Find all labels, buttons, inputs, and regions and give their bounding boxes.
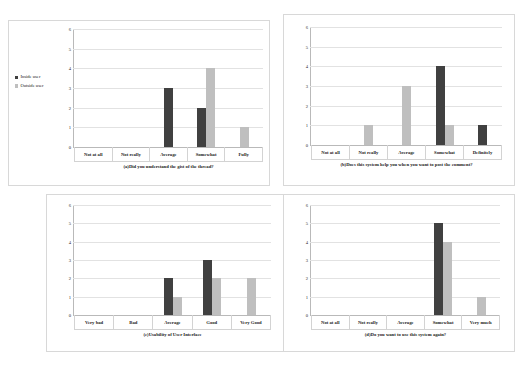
bar-category-group <box>387 27 425 145</box>
x-axis-category-band: Not at allNot reallyAverageSomewhatVery … <box>311 315 500 330</box>
chart-caption-a: (a)Did you understand the gist of the th… <box>74 164 263 169</box>
y-tick-label: 5 <box>69 46 71 51</box>
bar-category-group <box>349 27 387 145</box>
y-axis-tick-labels: 0123456 <box>299 27 308 145</box>
x-tick-label: Very Good <box>232 315 271 329</box>
x-axis-category-band: Not at allNot reallyAverageSomewhatDefin… <box>311 145 502 160</box>
x-tick-label: Average <box>153 315 192 329</box>
y-tick-label: 6 <box>69 203 71 208</box>
y-tick-label: 2 <box>69 105 71 110</box>
x-tick-label: Good <box>193 315 232 329</box>
x-tick-label: Not really <box>113 147 151 161</box>
x-tick-label: Definitely <box>464 145 502 159</box>
legend-entry-outside-user: Outside user <box>15 82 43 91</box>
chart-panel-b: 0123456 (b)Does this system help you whe… <box>283 14 515 186</box>
bar-category-group <box>150 29 188 147</box>
bar-category-group <box>153 205 192 315</box>
bar-group-container <box>74 29 263 147</box>
bar-inside-user <box>203 260 212 315</box>
y-tick-label: 4 <box>69 66 71 71</box>
chart-panel-c: 0123456 (c)Usability of User Interface V… <box>46 194 290 352</box>
y-tick-label: 1 <box>306 123 308 128</box>
bar-category-group <box>462 205 500 315</box>
y-tick-label: 5 <box>306 221 308 226</box>
plot-area-a: 0123456 <box>73 29 263 147</box>
bar-inside-user <box>197 108 206 147</box>
y-axis-tick-labels: 0123456 <box>299 205 308 315</box>
legend-swatch-inside-user <box>15 76 18 79</box>
bar-category-group <box>311 205 349 315</box>
y-tick-label: 5 <box>306 44 308 49</box>
bar-outside-user <box>206 68 215 147</box>
legend-label-outside-user: Outside user <box>20 82 43 91</box>
x-tick-label: Average <box>387 315 425 329</box>
bar-category-group <box>424 205 462 315</box>
plot-area-c: 0123456 <box>73 205 271 315</box>
x-tick-label: Somewhat <box>425 315 463 329</box>
bar-category-group <box>112 29 150 147</box>
y-tick-label: 5 <box>69 221 71 226</box>
x-tick-label: Very much <box>462 315 500 329</box>
x-axis-category-band: Very badBadAverageGoodVery Good <box>74 315 271 330</box>
bar-outside-user <box>240 127 249 147</box>
x-axis-category-band: Not at allNot reallyAverageSomewhatFully <box>74 147 263 162</box>
chart-caption-c: (c)Usability of User Interface <box>74 332 271 337</box>
x-tick-label: Not really <box>350 145 388 159</box>
y-tick-label: 1 <box>69 294 71 299</box>
y-tick-label: 3 <box>306 258 308 263</box>
x-tick-label: Somewhat <box>426 145 464 159</box>
y-tick-label: 0 <box>69 313 71 318</box>
y-axis-tick-labels: 0123456 <box>62 205 71 315</box>
bar-group-container <box>311 27 502 145</box>
bar-category-group <box>192 205 231 315</box>
bar-category-group <box>113 205 152 315</box>
x-tick-label: Not at all <box>74 147 113 161</box>
y-tick-label: 1 <box>306 294 308 299</box>
x-tick-label: Not at all <box>311 315 350 329</box>
bar-inside-user <box>436 66 445 145</box>
bar-outside-user <box>247 278 256 315</box>
y-tick-label: 3 <box>306 84 308 89</box>
y-tick-label: 4 <box>306 239 308 244</box>
bar-category-group <box>225 29 263 147</box>
bar-inside-user <box>434 223 443 315</box>
y-tick-label: 0 <box>306 313 308 318</box>
chart-legend: Inside user Outside user <box>15 73 43 90</box>
y-tick-label: 2 <box>306 103 308 108</box>
y-tick-label: 2 <box>69 276 71 281</box>
bar-category-group <box>232 205 271 315</box>
bar-category-group <box>74 205 113 315</box>
x-tick-label: Not at all <box>311 145 350 159</box>
x-tick-label: Not really <box>350 315 388 329</box>
x-tick-label: Average <box>150 147 188 161</box>
bar-outside-user <box>173 297 182 315</box>
bar-outside-user <box>212 278 221 315</box>
y-tick-label: 3 <box>69 258 71 263</box>
x-tick-label: Very bad <box>74 315 114 329</box>
bar-category-group <box>187 29 225 147</box>
legend-label-inside-user: Inside user <box>20 73 40 82</box>
bar-inside-user <box>164 278 173 315</box>
chart-panel-a: Inside user Outside user 0123456 (a)Did … <box>8 20 270 186</box>
bar-category-group <box>387 205 425 315</box>
y-tick-label: 1 <box>69 125 71 130</box>
x-tick-label: Somewhat <box>188 147 226 161</box>
y-tick-label: 4 <box>306 64 308 69</box>
bar-inside-user <box>164 88 173 147</box>
y-axis-tick-labels: 0123456 <box>62 29 71 147</box>
plot-area-b: 0123456 <box>310 27 502 145</box>
plot-area-d: 0123456 <box>310 205 500 315</box>
y-tick-label: 0 <box>69 145 71 150</box>
bar-category-group <box>426 27 464 145</box>
bar-category-group <box>74 29 112 147</box>
chart-caption-d: (d)Do you want to use this system again? <box>311 332 500 337</box>
bar-category-group <box>464 27 502 145</box>
x-tick-label: Bad <box>114 315 153 329</box>
y-tick-label: 3 <box>69 86 71 91</box>
bar-outside-user <box>445 125 454 145</box>
bar-group-container <box>74 205 271 315</box>
y-tick-label: 2 <box>306 276 308 281</box>
x-tick-label: Fully <box>225 147 263 161</box>
figure-sheet: Inside user Outside user 0123456 (a)Did … <box>0 0 523 366</box>
chart-panel-d: 0123456 (d)Do you want to use this syste… <box>283 194 515 352</box>
